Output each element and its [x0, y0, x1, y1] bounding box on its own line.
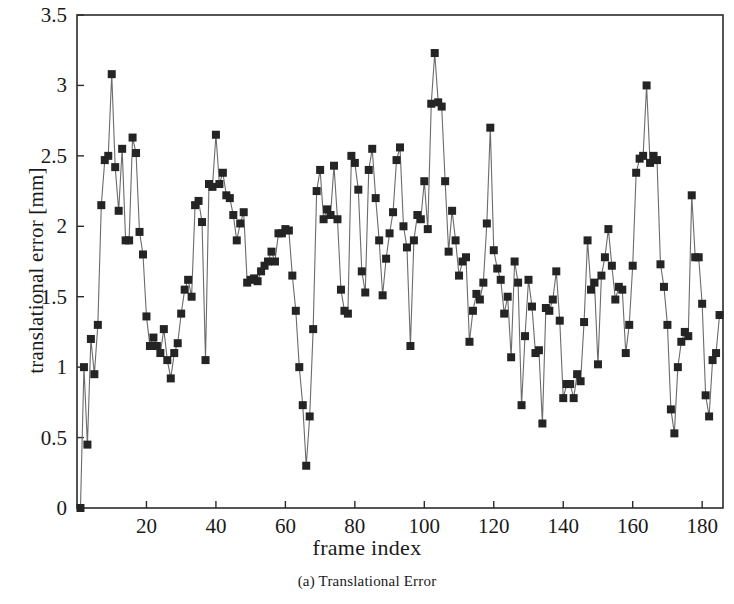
data-point-marker: [462, 253, 470, 261]
data-point-marker: [601, 253, 609, 261]
data-point-marker: [490, 246, 498, 254]
figure-caption: (a) Translational Error: [0, 573, 734, 590]
data-point-marker: [709, 356, 717, 364]
data-point-marker: [240, 208, 248, 216]
data-point-marker: [448, 207, 456, 215]
data-point-marker: [702, 391, 710, 399]
data-point-marker: [313, 187, 321, 195]
data-point-marker: [233, 236, 241, 244]
data-point-marker: [521, 332, 529, 340]
data-point-marker: [80, 363, 88, 371]
data-markers: [76, 49, 723, 512]
data-point-marker: [229, 211, 237, 219]
data-point-marker: [403, 243, 411, 251]
data-point-marker: [153, 342, 161, 350]
data-point-marker: [316, 166, 324, 174]
data-point-marker: [264, 258, 272, 266]
data-point-marker: [604, 225, 612, 233]
data-point-marker: [559, 394, 567, 402]
data-point-marker: [566, 380, 574, 388]
data-point-marker: [104, 152, 112, 160]
data-point-marker: [552, 267, 560, 275]
data-point-marker: [663, 321, 671, 329]
data-point-marker: [504, 293, 512, 301]
y-tick-label: 2: [57, 214, 68, 239]
data-point-marker: [208, 183, 216, 191]
data-point-marker: [295, 363, 303, 371]
data-point-marker: [469, 307, 477, 315]
data-point-marker: [174, 339, 182, 347]
data-point-marker: [465, 338, 473, 346]
data-point-marker: [160, 325, 168, 333]
data-point-marker: [476, 296, 484, 304]
data-point-marker: [514, 279, 522, 287]
data-point-marker: [76, 504, 84, 512]
data-point-marker: [493, 265, 501, 273]
data-point-marker: [271, 258, 279, 266]
data-point-marker: [139, 250, 147, 258]
data-point-marker: [379, 291, 387, 299]
data-point-marker: [670, 429, 678, 437]
data-point-marker: [149, 334, 157, 342]
figure-translational-error: 00.511.522.533.5 20406080100120140160180…: [0, 0, 734, 604]
data-point-marker: [507, 353, 515, 361]
x-axis-ticks: [146, 501, 702, 508]
data-point-marker: [570, 394, 578, 402]
data-point-marker: [125, 236, 133, 244]
data-point-marker: [202, 356, 210, 364]
data-point-marker: [347, 152, 355, 160]
data-point-marker: [587, 286, 595, 294]
y-tick-label: 3: [57, 73, 68, 98]
data-point-marker: [382, 255, 390, 263]
data-point-marker: [306, 412, 314, 420]
data-point-marker: [716, 311, 724, 319]
data-point-marker: [97, 201, 105, 209]
data-point-marker: [327, 211, 335, 219]
data-point-marker: [115, 207, 123, 215]
data-point-marker: [417, 215, 425, 223]
data-point-marker: [226, 194, 234, 202]
data-point-marker: [406, 342, 414, 350]
data-point-marker: [577, 377, 585, 385]
data-point-marker: [118, 145, 126, 153]
data-point-marker: [424, 225, 432, 233]
data-point-marker: [285, 227, 293, 235]
data-point-marker: [302, 462, 310, 470]
data-point-marker: [399, 222, 407, 230]
data-point-marker: [705, 412, 713, 420]
data-point-marker: [445, 248, 453, 256]
data-point-marker: [632, 169, 640, 177]
data-point-marker: [368, 145, 376, 153]
y-tick-label: 1: [57, 355, 68, 380]
data-point-marker: [365, 166, 373, 174]
data-point-marker: [267, 248, 275, 256]
data-point-marker: [156, 349, 164, 357]
data-point-marker: [219, 169, 227, 177]
data-point-marker: [622, 349, 630, 357]
data-point-marker: [545, 307, 553, 315]
data-point-marker: [167, 374, 175, 382]
data-point-marker: [667, 405, 675, 413]
data-point-marker: [674, 363, 682, 371]
data-point-marker: [396, 143, 404, 151]
data-point-marker: [236, 219, 244, 227]
data-point-marker: [427, 100, 435, 108]
data-point-marker: [94, 321, 102, 329]
data-point-marker: [393, 156, 401, 164]
data-point-marker: [198, 218, 206, 226]
data-point-marker: [292, 307, 300, 315]
data-point-marker: [455, 272, 463, 280]
x-axis-title: frame index: [0, 535, 734, 561]
data-point-marker: [594, 360, 602, 368]
data-point-marker: [146, 342, 154, 350]
data-point-marker: [608, 262, 616, 270]
data-point-marker: [254, 277, 262, 285]
data-point-marker: [646, 159, 654, 167]
data-point-marker: [684, 332, 692, 340]
data-point-marker: [573, 370, 581, 378]
data-point-marker: [177, 310, 185, 318]
data-point-marker: [184, 276, 192, 284]
data-point-marker: [643, 81, 651, 89]
y-axis-ticks: [77, 15, 84, 508]
data-point-marker: [83, 441, 91, 449]
